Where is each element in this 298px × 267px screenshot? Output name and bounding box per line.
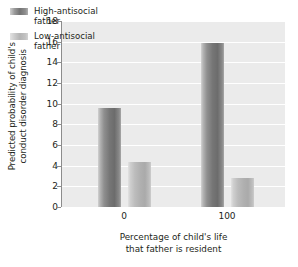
bar-high-antisocial-100 — [201, 43, 224, 207]
y-axis-tickmark — [57, 186, 61, 187]
x-axis-title-line-1: Percentage of child's life — [62, 231, 285, 243]
gridline — [62, 104, 285, 105]
y-axis-title-line-1: Predicted probability of child's — [7, 42, 18, 170]
legend-item-high-antisocial: High-antisocial father — [10, 6, 150, 27]
x-axis-title-line-2: that father is resident — [62, 243, 285, 255]
gridline — [62, 145, 285, 146]
gridline — [62, 124, 285, 125]
y-axis-tickmark — [57, 166, 61, 167]
legend-item-low-antisocial: Low-antisocial father — [10, 31, 150, 52]
legend-label-low-line-1: Low-antisocial — [34, 31, 95, 41]
legend-label-high-line-2: father — [34, 16, 98, 26]
x-axis-title: Percentage of child's life that father i… — [62, 231, 285, 255]
y-axis-tickmark — [57, 104, 61, 105]
y-axis-title-line-2: conduct disorder diagnosis — [18, 42, 29, 170]
y-axis-tickmark — [57, 83, 61, 84]
x-axis-tick-label: 0 — [121, 212, 127, 221]
gridline — [62, 62, 285, 63]
y-axis-tickmark — [57, 124, 61, 125]
y-axis-tickmark — [57, 145, 61, 146]
legend-swatch-low-antisocial-icon — [10, 33, 28, 40]
bar-chart-figure: Predicted probability of child's conduct… — [0, 0, 298, 267]
x-axis-tick-label: 100 — [218, 212, 235, 221]
bar-low-antisocial-100 — [231, 178, 254, 207]
chart-legend: High-antisocial father Low-antisocial fa… — [10, 6, 150, 56]
legend-label-low-line-2: father — [34, 41, 95, 51]
y-axis-tickmark — [57, 207, 61, 208]
bar-high-antisocial-0 — [98, 108, 121, 207]
legend-swatch-high-antisocial-icon — [10, 8, 28, 15]
bar-low-antisocial-0 — [128, 162, 151, 207]
legend-label-high-line-1: High-antisocial — [34, 6, 98, 16]
y-axis-tickmark — [57, 21, 61, 22]
y-axis-tickmark — [57, 42, 61, 43]
y-axis-tickmark — [57, 62, 61, 63]
gridline — [62, 166, 285, 167]
gridline — [62, 83, 285, 84]
